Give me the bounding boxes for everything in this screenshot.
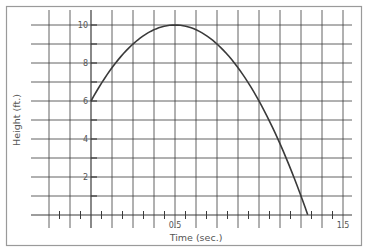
chart-frame (7, 7, 362, 246)
height-vs-time-chart: 246810 0.51.5 Time (sec.) Height (ft.) (0, 0, 366, 252)
y-tick-label: 6 (83, 97, 88, 106)
y-tick-label: 8 (83, 59, 88, 68)
x-tick-label: 0.5 (169, 221, 182, 230)
y-tick-label: 10 (78, 21, 88, 30)
y-tick-label: 4 (83, 135, 88, 144)
x-axis-label: Time (sec.) (169, 232, 223, 243)
x-tick-label: 1.5 (337, 221, 350, 230)
y-tick-label: 2 (83, 173, 88, 182)
y-axis-label: Height (ft.) (11, 94, 22, 146)
